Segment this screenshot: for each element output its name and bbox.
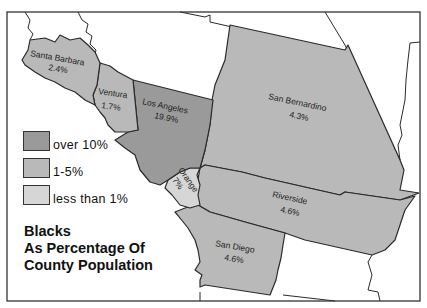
map-title: Blacks As Percentage Of County Populatio… xyxy=(24,223,153,274)
title-line-3: County Population xyxy=(24,257,153,274)
legend-item-over-10: over 10% xyxy=(23,127,128,154)
legend-label-over-10: over 10% xyxy=(53,138,108,152)
legend-swatch-over-10 xyxy=(23,131,50,151)
legend-swatch-under-1 xyxy=(23,185,50,205)
legend: over 10% 1-5% less than 1% xyxy=(23,127,128,208)
legend-label-under-1: less than 1% xyxy=(53,192,128,206)
legend-item-under-1: less than 1% xyxy=(23,181,128,208)
legend-label-1-5: 1-5% xyxy=(53,165,83,179)
title-line-1: Blacks xyxy=(24,223,153,240)
title-line-2: As Percentage Of xyxy=(24,240,153,257)
legend-item-1-5: 1-5% xyxy=(23,154,128,181)
legend-swatch-1-5 xyxy=(23,158,50,178)
